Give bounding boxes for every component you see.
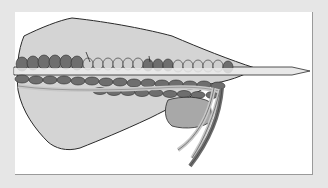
knitting-illustration — [0, 0, 328, 188]
